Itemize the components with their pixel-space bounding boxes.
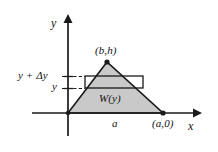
vertex-dot-apex (104, 59, 109, 64)
base-length-label: a (112, 118, 118, 129)
x-axis-label: x (188, 120, 193, 132)
apex-point-label: (b,h) (95, 45, 117, 56)
x-axis-arrowhead (193, 109, 202, 118)
vertex-dot-origin (66, 111, 70, 115)
y-axis-arrowhead (64, 14, 73, 23)
geometry-figure: y x (b,h) y + Δy y W(y) a (a,0) (0, 0, 218, 152)
lower-tick-label: y (52, 81, 57, 92)
y-axis-label: y (51, 17, 56, 29)
vertex-dot-base-right (160, 110, 165, 115)
base-right-point-label: (a,0) (152, 118, 174, 129)
upper-tick-label: y + Δy (18, 70, 48, 81)
strip-width-label: W(y) (99, 93, 121, 104)
